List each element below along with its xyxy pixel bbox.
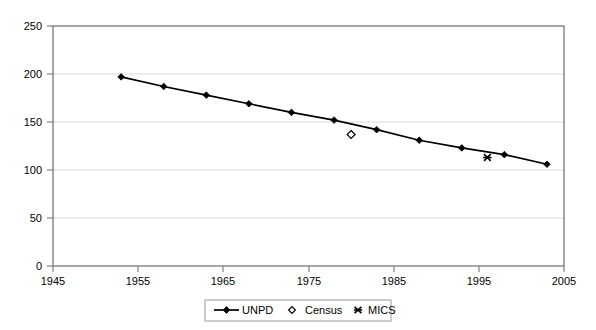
y-tick-label-100: 100 <box>24 164 42 176</box>
x-tick-label-1995: 1995 <box>467 275 491 287</box>
line-chart: 0 50 100 150 200 250 1945 1955 1965 1975… <box>0 0 596 330</box>
x-tick-label-1985: 1985 <box>382 275 406 287</box>
x-tick-label-1955: 1955 <box>126 275 150 287</box>
x-tick-label-1975: 1975 <box>297 275 321 287</box>
legend-label-mics: MICS <box>368 304 396 316</box>
legend-label-census: Census <box>305 304 343 316</box>
y-tick-label-50: 50 <box>30 212 42 224</box>
y-tick-label-0: 0 <box>36 260 42 272</box>
y-tick-label-200: 200 <box>24 68 42 80</box>
chart-container: 0 50 100 150 200 250 1945 1955 1965 1975… <box>0 0 596 330</box>
x-tick-label-2005: 2005 <box>552 275 576 287</box>
x-tick-label-1945: 1945 <box>41 275 65 287</box>
legend-label-unpd: UNPD <box>242 304 273 316</box>
y-tick-label-150: 150 <box>24 116 42 128</box>
y-tick-label-250: 250 <box>24 20 42 32</box>
legend: UNPD Census MICS <box>205 300 396 321</box>
x-tick-label-1965: 1965 <box>211 275 235 287</box>
